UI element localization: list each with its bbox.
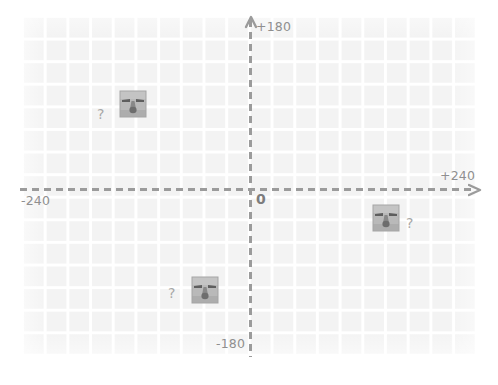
unknown-position-marker: ? — [97, 106, 104, 122]
x-axis-negative-label: -240 — [21, 193, 50, 208]
y-axis-positive-label: +180 — [256, 19, 291, 34]
stone-face-sprite[interactable] — [118, 89, 148, 119]
unknown-position-marker: ? — [168, 285, 175, 301]
origin-label: 0 — [256, 191, 266, 207]
stone-face-sprite[interactable] — [371, 203, 401, 233]
unknown-position-marker: ? — [406, 215, 413, 231]
x-axis-arrow-icon — [468, 182, 484, 202]
y-axis-negative-label: -180 — [216, 336, 245, 351]
coordinate-plane-canvas: +180 -180 +240 -240 0 ? ? — [0, 0, 498, 385]
x-axis-positive-label: +240 — [440, 168, 475, 183]
x-axis-dashed-line — [20, 188, 475, 191]
y-axis-dashed-line — [249, 20, 252, 357]
stone-face-sprite[interactable] — [190, 275, 220, 305]
